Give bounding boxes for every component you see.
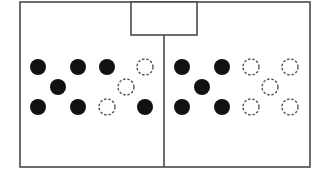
right-dashed-player-icon	[282, 99, 298, 115]
right-dashed-player-icon	[282, 59, 298, 75]
right-dashed-player-icon	[243, 59, 259, 75]
right-half-players	[174, 59, 298, 115]
right-solid-player-icon	[174, 59, 190, 75]
right-dashed-player-icon	[243, 99, 259, 115]
left-dashed-player-icon	[118, 79, 134, 95]
left-solid-player-icon	[70, 99, 86, 115]
left-solid-player-icon	[70, 59, 86, 75]
right-solid-player-icon	[214, 59, 230, 75]
left-half-players	[30, 59, 153, 115]
right-solid-player-icon	[194, 79, 210, 95]
left-solid-player-icon	[50, 79, 66, 95]
right-solid-player-icon	[174, 99, 190, 115]
left-dashed-player-icon	[137, 59, 153, 75]
goal-box	[131, 2, 197, 35]
field-diagram	[0, 0, 332, 176]
left-dashed-player-icon	[99, 99, 115, 115]
right-dashed-player-icon	[262, 79, 278, 95]
left-solid-player-icon	[99, 59, 115, 75]
left-solid-player-icon	[30, 59, 46, 75]
left-solid-player-icon	[137, 99, 153, 115]
left-solid-player-icon	[30, 99, 46, 115]
right-solid-player-icon	[214, 99, 230, 115]
